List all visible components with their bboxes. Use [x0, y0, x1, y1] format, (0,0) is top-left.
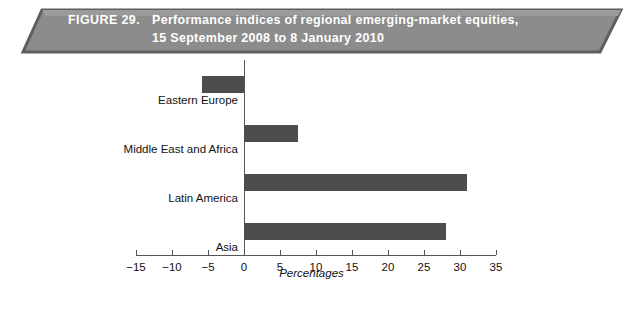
figure-title-line-2: 15 September 2008 to 8 January 2010: [152, 31, 384, 45]
x-axis-tick: [388, 250, 389, 255]
x-axis-tick-label: 35: [476, 261, 516, 273]
x-axis-tick-label: 20: [368, 261, 408, 273]
category-label: Middle East and Africa: [0, 143, 238, 155]
x-axis-tick: [352, 250, 353, 255]
bar-eastern-europe: [202, 76, 244, 93]
x-axis-tick: [280, 250, 281, 255]
category-label: Asia: [0, 241, 238, 253]
x-axis-tick-label: 0: [224, 261, 264, 273]
x-axis-tick-label: −10: [152, 261, 192, 273]
x-axis-tick-label: 10: [296, 261, 336, 273]
category-label: Eastern Europe: [0, 94, 238, 106]
x-axis-tick-label: 25: [404, 261, 444, 273]
x-axis-tick-label: −15: [116, 261, 156, 273]
x-axis-tick: [496, 250, 497, 255]
figure-page: FIGURE 29. Performance indices of region…: [0, 0, 623, 319]
category-label: Latin America: [0, 192, 238, 204]
x-axis-line: [136, 255, 496, 256]
bar-chart-plot-area: Percentages −15−10−505101520253035Easter…: [0, 60, 623, 319]
bar-middle-east-and-africa: [244, 125, 298, 142]
figure-title-banner: FIGURE 29. Performance indices of region…: [0, 6, 623, 56]
x-axis-tick: [244, 250, 245, 255]
figure-number-label: FIGURE 29.: [68, 13, 140, 27]
x-axis-tick-label: −5: [188, 261, 228, 273]
x-axis-tick: [424, 250, 425, 255]
x-axis-tick: [316, 250, 317, 255]
x-axis-tick-label: 5: [260, 261, 300, 273]
x-axis-tick-label: 15: [332, 261, 372, 273]
bar-latin-america: [244, 174, 467, 191]
banner-text-block: FIGURE 29. Performance indices of region…: [0, 6, 623, 56]
x-axis-tick: [460, 250, 461, 255]
x-axis-tick-label: 30: [440, 261, 480, 273]
figure-title-line-1: Performance indices of regional emerging…: [152, 13, 519, 27]
bar-asia: [244, 223, 446, 240]
